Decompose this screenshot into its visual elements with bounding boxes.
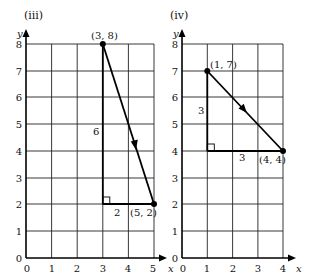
y-axis-arrow-icon [23,29,30,37]
svg-text:8: 8 [172,39,178,50]
y-tick-labels: 0 1 2 3 4 5 6 7 8 [172,39,178,264]
vertical-leg-label: 6 [93,126,99,137]
point-a-label: (1, 7) [210,59,237,70]
point-b-label: (5, 2) [130,207,157,218]
panel-iv: (iv) y x 0 1 2 3 4 5 6 [170,9,302,274]
grid [26,44,154,258]
vertical-leg-label: 3 [198,105,204,116]
x-axis-label: x [296,263,302,274]
svg-text:3: 3 [100,263,106,274]
svg-text:0: 0 [172,253,178,264]
svg-text:1: 1 [16,226,22,237]
svg-text:3: 3 [172,173,178,184]
horizontal-leg-label: 2 [114,207,120,218]
svg-text:0: 0 [24,263,30,274]
svg-text:1: 1 [172,226,178,237]
svg-text:1: 1 [204,263,210,274]
svg-text:4: 4 [172,146,178,157]
y-tick-labels: 0 1 2 3 4 5 6 7 8 [16,39,22,264]
svg-text:7: 7 [172,66,178,77]
point-a [100,41,106,47]
svg-text:2: 2 [74,263,80,274]
svg-text:2: 2 [230,263,236,274]
y-axis-label: y [172,28,179,39]
right-angle-marker [103,197,110,204]
svg-text:6: 6 [16,92,22,103]
svg-text:2: 2 [16,199,22,210]
panel-label: (iv) [170,9,188,22]
svg-text:1: 1 [49,263,55,274]
svg-text:5: 5 [150,263,156,274]
diagram-canvas: (iii) y x 0 1 2 3 4 [0,0,311,280]
x-tick-labels: 0 1 2 3 4 [180,263,286,274]
y-axis-arrow-icon [179,29,186,37]
x-axis-arrow-icon [159,255,167,262]
point-b-label: (4, 4) [259,154,286,165]
svg-text:8: 8 [16,39,22,50]
x-tick-labels: 0 1 2 3 4 5 [24,263,156,274]
horizontal-leg-label: 3 [239,152,245,163]
right-angle-marker [207,144,214,151]
svg-text:7: 7 [16,66,22,77]
panel-label: (iii) [24,9,43,22]
svg-text:5: 5 [16,119,22,130]
x-axis-arrow-icon [288,255,296,262]
svg-text:4: 4 [16,146,22,157]
svg-text:0: 0 [16,253,22,264]
svg-text:5: 5 [172,119,178,130]
svg-text:4: 4 [125,263,131,274]
y-axis-label: y [16,28,23,39]
point-a-label: (3, 8) [91,30,118,41]
svg-text:6: 6 [172,92,178,103]
svg-text:3: 3 [16,173,22,184]
svg-text:0: 0 [180,263,186,274]
svg-text:2: 2 [172,199,178,210]
svg-text:4: 4 [280,263,286,274]
panel-iii: (iii) y x 0 1 2 3 4 [16,9,174,274]
svg-text:3: 3 [255,263,261,274]
x-axis-label: x [168,263,174,274]
